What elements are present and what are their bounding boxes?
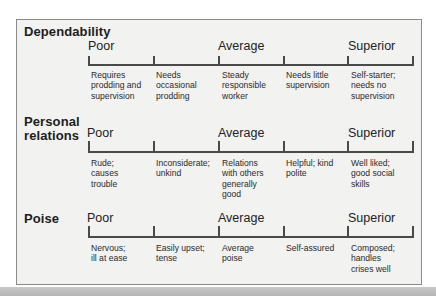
descriptor-personal-relations-4: Helpful; kind polite	[286, 158, 350, 179]
scale-tick	[347, 226, 349, 238]
descriptor-dependability-1: Requires prodding and supervision	[91, 70, 155, 101]
descriptor-personal-relations-5: Well liked; good social skills	[351, 158, 415, 189]
criterion-title-personal-relations: Personal relations	[24, 115, 80, 143]
descriptor-dependability-5: Self-starter; needs no supervision	[351, 70, 415, 101]
scale-tick	[153, 141, 155, 153]
scale-tick	[218, 226, 220, 238]
descriptor-personal-relations-2: Inconsiderate; unkind	[156, 158, 220, 179]
scale-line-poise	[88, 236, 414, 238]
level-label-average: Average	[218, 212, 264, 225]
scale-tick	[88, 56, 90, 66]
scale-tick	[283, 226, 285, 238]
descriptor-poise-2: Easily upset; tense	[156, 243, 220, 264]
descriptor-poise-5: Composed; handles crises well	[351, 243, 415, 274]
descriptor-dependability-4: Needs little supervision	[286, 70, 350, 91]
scale-tick	[347, 56, 349, 66]
scale-tick	[218, 56, 220, 66]
scale-tick	[283, 141, 285, 153]
level-label-superior: Superior	[348, 127, 395, 140]
scale-tick	[88, 226, 90, 238]
level-label-superior: Superior	[348, 40, 395, 53]
level-label-poor: Poor	[87, 127, 113, 140]
level-label-average: Average	[218, 40, 264, 53]
level-label-average: Average	[218, 127, 264, 140]
descriptor-poise-3: Average poise	[222, 243, 286, 264]
scale-line-dependability	[88, 64, 414, 66]
criterion-title-dependability: Dependability	[24, 25, 111, 38]
scale-tick	[283, 56, 285, 66]
descriptor-personal-relations-1: Rude; causes trouble	[91, 158, 155, 189]
scale-tick	[218, 141, 220, 153]
scale-tick	[153, 226, 155, 238]
scale-tick	[412, 226, 414, 238]
scale-tick	[347, 141, 349, 153]
level-label-poor: Poor	[87, 212, 113, 225]
descriptor-poise-4: Self-assured	[286, 243, 350, 253]
scale-tick	[412, 56, 414, 66]
descriptor-poise-1: Nervous; ill at ease	[91, 243, 155, 264]
criterion-title-poise: Poise	[24, 212, 59, 225]
scale-tick	[88, 141, 90, 153]
descriptor-personal-relations-3: Relations with others generally good	[222, 158, 286, 200]
bottom-band	[0, 287, 436, 296]
scale-tick	[412, 141, 414, 153]
scale-tick	[153, 56, 155, 66]
level-label-superior: Superior	[348, 212, 395, 225]
descriptor-dependability-3: Steady responsible worker	[222, 70, 286, 101]
descriptor-dependability-2: Needs occasional prodding	[156, 70, 220, 101]
level-label-poor: Poor	[88, 40, 114, 53]
scale-line-personal-relations	[88, 151, 414, 153]
